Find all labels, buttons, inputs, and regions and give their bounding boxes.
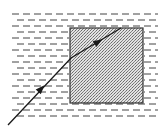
refraction-diagram bbox=[0, 0, 167, 133]
glass-block bbox=[70, 28, 143, 103]
